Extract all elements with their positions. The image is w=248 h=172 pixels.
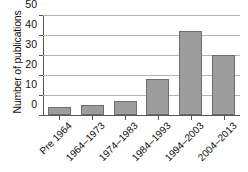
x-axis-line xyxy=(43,115,240,116)
bar xyxy=(179,31,202,115)
bar-chart-figure: Number of publications 01020304050 Pre 1… xyxy=(0,0,248,172)
y-axis-title: Number of publications xyxy=(11,7,23,117)
y-tick-label: 50 xyxy=(25,0,37,10)
y-tick-mark xyxy=(39,55,43,56)
bar xyxy=(48,107,71,115)
gridline xyxy=(43,55,240,56)
gridline xyxy=(43,95,240,96)
y-axis-line xyxy=(43,16,44,116)
y-tick-label: 0 xyxy=(31,98,37,110)
y-tick-mark xyxy=(39,115,43,116)
y-tick-mark xyxy=(39,95,43,96)
y-tick-label: 40 xyxy=(25,18,37,30)
bar xyxy=(212,55,235,115)
y-tick-mark xyxy=(39,35,43,36)
bar xyxy=(114,101,137,115)
y-tick-label: 20 xyxy=(25,58,37,70)
bar xyxy=(81,105,104,115)
bar xyxy=(146,79,169,115)
y-tick-mark xyxy=(39,15,43,16)
x-tick-mark xyxy=(158,116,159,120)
x-tick-mark xyxy=(59,116,60,120)
x-tick-mark xyxy=(191,116,192,120)
plot-area: 01020304050 xyxy=(43,16,240,116)
x-tick-mark xyxy=(125,116,126,120)
gridline xyxy=(43,35,240,36)
x-tick-mark xyxy=(224,116,225,120)
y-tick-label: 30 xyxy=(25,38,37,50)
gridline xyxy=(43,75,240,76)
y-tick-mark xyxy=(39,75,43,76)
x-tick-mark xyxy=(92,116,93,120)
y-tick-label: 10 xyxy=(25,78,37,90)
gridline xyxy=(43,15,240,16)
